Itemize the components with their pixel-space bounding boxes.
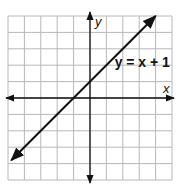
function-line (11, 16, 155, 160)
coordinate-plane: x y y = x + 1 (0, 0, 181, 195)
equation-label: y = x + 1 (115, 54, 170, 70)
x-axis-label: x (162, 81, 170, 96)
